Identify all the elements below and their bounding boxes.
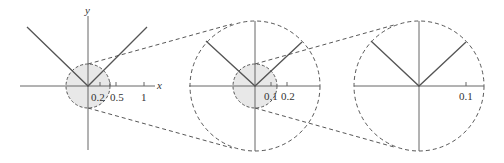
panel-3: 0.1 [354, 21, 484, 151]
diagram-canvas: y x 0.2 0.5 1 0.1 0.2 [0, 0, 504, 163]
tick-label-0.2: 0.2 [281, 90, 295, 102]
tick-label-0.5: 0.5 [110, 91, 124, 103]
zoom-diagram: y x 0.2 0.5 1 0.1 0.2 [0, 0, 504, 163]
tick-label-0.2: 0.2 [91, 91, 105, 103]
tick-label-0.1: 0.1 [264, 90, 278, 102]
panel-2: 0.1 0.2 [189, 21, 320, 151]
tick-label-1: 1 [141, 91, 147, 103]
panel-1: y x 0.2 0.5 1 [20, 4, 162, 150]
y-axis-label: y [84, 4, 90, 16]
tick-label-0.1: 0.1 [459, 90, 473, 102]
x-axis-label: x [156, 79, 162, 91]
